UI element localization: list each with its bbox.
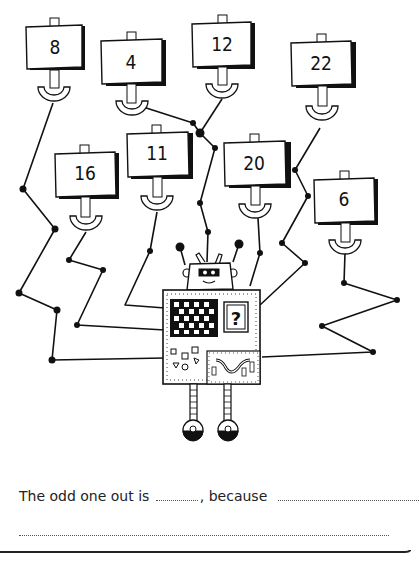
svg-text:11: 11	[146, 142, 168, 164]
svg-text:16: 16	[74, 162, 96, 184]
checkerboard-screen	[170, 299, 218, 337]
svg-text:20: 20	[243, 152, 265, 174]
question-because: , because	[200, 488, 267, 504]
reason-blank[interactable]	[278, 486, 419, 501]
svg-text:4: 4	[126, 51, 137, 73]
svg-text:6: 6	[339, 188, 350, 210]
sign-22: 22	[291, 34, 356, 120]
robot: ?	[163, 253, 260, 441]
svg-text:12: 12	[211, 33, 233, 55]
sign-6: 6	[314, 171, 378, 254]
sign-12: 12	[192, 15, 255, 98]
sign-8: 8	[26, 18, 85, 101]
sign-20: 20	[224, 134, 291, 218]
sign-4: 4	[101, 32, 166, 115]
sign-16: 16	[55, 145, 119, 230]
answer-blank[interactable]	[156, 486, 198, 501]
svg-text:8: 8	[50, 36, 61, 58]
question-line-1: The odd one out is , because	[19, 486, 419, 504]
question-mark: ?	[231, 308, 241, 329]
sign-11: 11	[127, 125, 193, 210]
page-border	[0, 550, 411, 554]
svg-text:22: 22	[310, 52, 332, 74]
robot-illustration: 8 4 12 22 16	[0, 0, 411, 460]
question-prefix: The odd one out is	[19, 488, 149, 504]
reason-blank-line-2[interactable]	[19, 534, 389, 536]
